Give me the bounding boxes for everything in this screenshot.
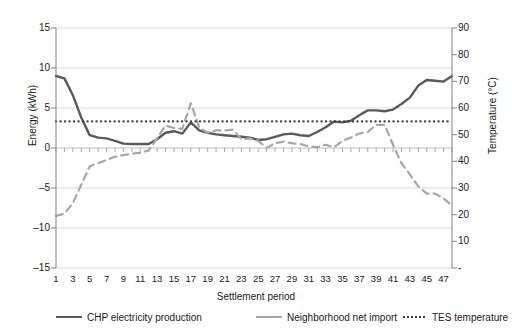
legend-swatch-solid-icon xyxy=(56,311,82,323)
legend-item[interactable]: TES temperature xyxy=(401,310,508,324)
legend-swatch-dotted-icon xyxy=(401,311,427,323)
legend-swatch-dashed-icon xyxy=(256,311,282,323)
chart-figure: Energy (kWh) Temperature (°C) Settlement… xyxy=(0,0,512,331)
series-line xyxy=(56,103,452,216)
data-series xyxy=(56,76,452,216)
legend-item[interactable]: CHP electricity production xyxy=(56,310,202,324)
chart-legend: CHP electricity productionNeighborhood n… xyxy=(56,310,486,328)
series-line xyxy=(56,76,452,144)
legend-label: Neighborhood net import xyxy=(287,312,397,323)
plot-area xyxy=(0,0,512,331)
legend-item[interactable]: Neighborhood net import xyxy=(256,310,397,324)
legend-label: CHP electricity production xyxy=(87,312,202,323)
legend-label: TES temperature xyxy=(432,312,508,323)
